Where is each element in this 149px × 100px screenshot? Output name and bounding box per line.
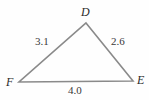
triangle-outline bbox=[19, 23, 133, 82]
vertex-label-d: D bbox=[81, 6, 90, 18]
side-length-label-fe: 4.0 bbox=[68, 85, 82, 96]
side-length-label-de: 2.6 bbox=[111, 36, 125, 47]
side-length-label-df: 3.1 bbox=[35, 36, 49, 47]
vertex-label-f: F bbox=[6, 76, 13, 88]
triangle-figure: D F E 3.1 2.6 4.0 bbox=[0, 0, 149, 100]
vertex-label-e: E bbox=[137, 74, 144, 86]
